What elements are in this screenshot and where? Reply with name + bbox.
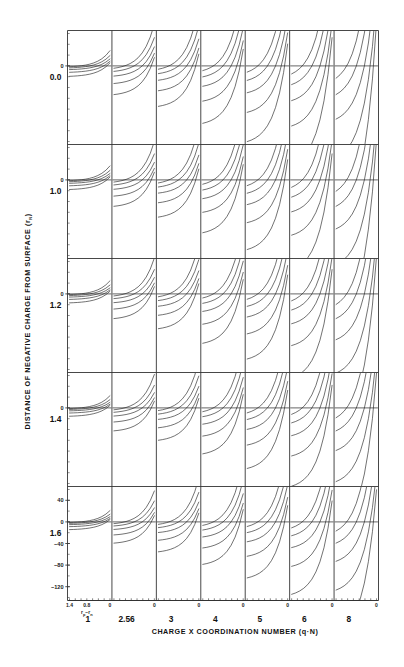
rn-subscript: n	[90, 612, 93, 617]
curve	[203, 222, 243, 298]
curve	[203, 510, 243, 565]
curve	[158, 164, 198, 203]
curve	[292, 171, 332, 300]
panel	[201, 222, 245, 343]
x-axis-tick-labels: 1.40.80000000	[66, 602, 378, 608]
curve	[203, 103, 243, 184]
y-axis-title-unit-close: )	[23, 213, 32, 216]
curve	[203, 245, 243, 303]
column-labels: 12.5634568	[86, 614, 352, 624]
panel	[334, 0, 378, 216]
y-tick-label: 0	[60, 291, 63, 297]
curve	[247, 0, 287, 80]
curve	[336, 1, 376, 158]
curve	[158, 48, 198, 90]
column-label: 1	[86, 614, 91, 624]
x-axis-title-text: CHARGE X COORDINATION NUMBER	[152, 627, 299, 636]
curve	[158, 169, 198, 217]
curve	[158, 26, 198, 73]
curve	[247, 498, 287, 557]
panel	[201, 460, 245, 600]
panel	[334, 106, 378, 423]
panel	[68, 511, 112, 601]
curve	[158, 260, 198, 301]
curve	[203, 41, 243, 101]
curve	[203, 128, 243, 190]
curve	[203, 363, 243, 417]
curve	[203, 49, 243, 123]
panel	[112, 24, 156, 94]
curve	[158, 126, 198, 183]
curve	[114, 491, 154, 524]
curve	[247, 382, 287, 446]
panel	[290, 0, 334, 164]
curve	[292, 23, 332, 126]
curve	[70, 166, 110, 181]
curve	[247, 44, 287, 142]
curve	[292, 154, 332, 270]
curve	[247, 160, 287, 250]
curve	[292, 211, 332, 310]
curve	[158, 54, 198, 106]
curve	[292, 270, 332, 378]
panel-x-zero-label: 0	[375, 602, 378, 608]
panel-x-zero-label: 0	[331, 602, 334, 608]
curve	[292, 374, 332, 456]
row-label: 1.0	[50, 186, 62, 196]
curve	[247, 150, 287, 223]
figure-panel-grid: 0000400−40−80−1200.01.01.21.41.61.40.800…	[0, 0, 404, 667]
panel	[156, 478, 200, 600]
curve	[158, 279, 198, 316]
plot-svg: 0000400−40−80−1200.01.01.21.41.61.40.800…	[0, 0, 404, 667]
curve	[336, 290, 376, 431]
curve	[203, 165, 243, 233]
curve	[203, 395, 243, 454]
x-axis-title: CHARGE X COORDINATION NUMBER (q·N)	[152, 627, 319, 636]
curve	[247, 320, 287, 413]
panel	[112, 258, 156, 319]
panel-x-zero-label: 0	[153, 602, 156, 608]
curve	[158, 7, 198, 69]
curve	[247, 440, 287, 526]
curve	[336, 238, 376, 373]
curve	[114, 38, 154, 72]
curve	[247, 79, 287, 186]
y-axis-title-text: DISTANCE OF NEGATIVE CHARGE FROM SURFACE	[23, 226, 32, 430]
panel	[112, 374, 156, 430]
curve	[336, 167, 376, 319]
row-labels: 0.01.01.21.41.6	[50, 72, 62, 538]
panel	[112, 141, 156, 206]
curve	[158, 513, 198, 552]
curve	[70, 396, 110, 409]
column-label: 3	[169, 614, 174, 624]
grid-root: 0000400−40−80−1200.01.01.21.41.61.40.800…	[23, 0, 379, 636]
curve	[203, 388, 243, 436]
curve	[247, 275, 287, 359]
column-label: 2.56	[118, 614, 135, 624]
y-axis-title: DISTANCE OF NEGATIVE CHARGE FROM SURFACE…	[23, 213, 33, 429]
curve	[336, 490, 376, 633]
curve	[114, 401, 154, 431]
curve	[292, 490, 332, 566]
curve	[114, 141, 154, 182]
column-label: 5	[258, 614, 263, 624]
y-tick-label: −40	[54, 541, 64, 547]
panel	[290, 294, 334, 486]
panel-x-tick-label: 0	[109, 602, 112, 608]
row-label: 0.0	[50, 72, 62, 82]
curve	[158, 478, 198, 524]
column-label: 4	[213, 614, 218, 624]
curve	[336, 373, 376, 528]
panel	[68, 51, 112, 77]
curve	[114, 258, 154, 296]
panel	[334, 0, 378, 318]
curve	[247, 33, 287, 112]
row-label: 1.2	[50, 300, 62, 310]
panel-x-tick-label: 0.8	[83, 602, 90, 608]
curve	[247, 111, 287, 193]
y-tick-label: 0	[60, 405, 63, 411]
curve	[292, 257, 332, 345]
curve	[203, 480, 243, 530]
curve	[70, 51, 110, 67]
curve	[247, 348, 287, 419]
